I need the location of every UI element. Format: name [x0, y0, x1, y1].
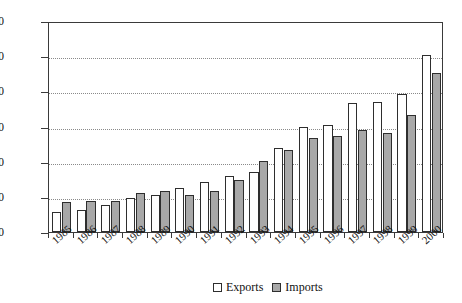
bar-imports-1998	[383, 133, 392, 232]
legend-swatch-imports-icon	[272, 283, 281, 292]
bar-imports-2000	[432, 73, 441, 232]
bar-exports-1999	[397, 94, 406, 232]
gridline-200	[49, 93, 442, 94]
bar-imports-1993	[259, 161, 268, 232]
gridline-150	[49, 129, 442, 130]
bar-exports-1991	[200, 182, 209, 232]
bar-exports-1992	[225, 176, 234, 232]
y-axis-tick-mark	[41, 163, 48, 164]
legend-swatch-exports-icon	[213, 283, 222, 292]
y-axis-tick-label: 200	[0, 86, 4, 98]
chart-legend: Exports Imports	[213, 281, 323, 293]
bar-exports-1995	[299, 127, 308, 233]
y-axis-tick-mark	[41, 92, 48, 93]
y-axis-tick-label: 250	[0, 51, 4, 63]
legend-label-exports: Exports	[226, 281, 263, 293]
y-axis-tick-mark	[41, 233, 48, 234]
bar-exports-1993	[249, 172, 258, 232]
legend-item-imports: Imports	[272, 281, 322, 293]
y-axis-tick-mark	[41, 198, 48, 199]
bar-imports-1995	[309, 138, 318, 232]
bar-exports-1997	[348, 103, 357, 232]
plot-area	[48, 22, 443, 233]
y-axis-tick-mark	[41, 128, 48, 129]
bar-imports-1999	[407, 115, 416, 232]
x-axis-tick-mark	[443, 233, 444, 238]
bar-exports-1990	[175, 188, 184, 232]
legend-item-exports: Exports	[213, 281, 263, 293]
gridline-250	[49, 58, 442, 59]
y-axis-tick-label: 150	[0, 122, 4, 134]
bar-exports-1996	[323, 125, 332, 232]
y-axis-tick-mark	[41, 22, 48, 23]
bar-exports-2000	[422, 55, 431, 232]
bar-exports-1994	[274, 148, 283, 232]
plot-inner	[49, 23, 442, 232]
bar-imports-1996	[333, 136, 342, 232]
bar-exports-1998	[373, 102, 382, 232]
y-axis-tick-mark	[41, 57, 48, 58]
y-axis-tick-label: 50	[0, 192, 4, 204]
y-axis-tick-label: 100	[0, 157, 4, 169]
bar-imports-1997	[358, 130, 367, 232]
y-axis-tick-label: 0	[0, 227, 4, 239]
bar-chart: 050100150200250300 198519861987198819891…	[0, 0, 462, 303]
legend-label-imports: Imports	[285, 281, 322, 293]
bar-imports-1994	[284, 150, 293, 232]
y-axis-tick-label: 300	[0, 16, 4, 28]
